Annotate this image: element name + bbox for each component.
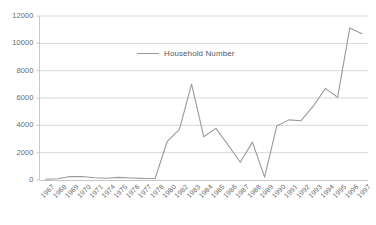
y-axis-tick-label: 8000 <box>0 66 34 75</box>
legend-item-label: Household Number <box>164 49 235 58</box>
y-axis-tick-label: 0 <box>0 175 34 184</box>
y-axis-tick-label: 4000 <box>0 120 34 129</box>
line-chart: 020004000600080001000012000 196719681969… <box>0 0 376 225</box>
y-axis-tick-label: 6000 <box>0 93 34 102</box>
legend-line-swatch <box>137 53 159 54</box>
chart-legend: Household Number <box>137 49 235 58</box>
gridlines <box>40 16 369 153</box>
y-axis-tick-label: 2000 <box>0 148 34 157</box>
y-axis-tick-label: 12000 <box>0 11 34 20</box>
y-axis-tick-label: 10000 <box>0 38 34 47</box>
